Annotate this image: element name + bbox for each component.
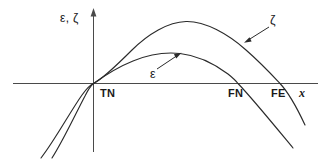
epsilon-curve-label: ε [150, 68, 156, 81]
zeta-leader-arrowhead [244, 37, 252, 43]
mark-label-fn: FN [228, 88, 243, 99]
epsilon-curve [52, 53, 293, 158]
mark-label-tn: TN [100, 88, 115, 99]
mark-label-fe: FE [271, 88, 285, 99]
zeta-curve [41, 21, 305, 158]
zeta-curve-label: ζ [270, 14, 276, 27]
y-axis-arrowhead [91, 8, 97, 17]
figure-container: ε, ζ x ζ ε TN FN FE [0, 0, 324, 162]
y-axis-label: ε, ζ [60, 12, 79, 24]
zeta-leader-line [248, 27, 270, 41]
epsilon-leader-line [157, 55, 178, 69]
x-axis-label: x [299, 87, 305, 99]
